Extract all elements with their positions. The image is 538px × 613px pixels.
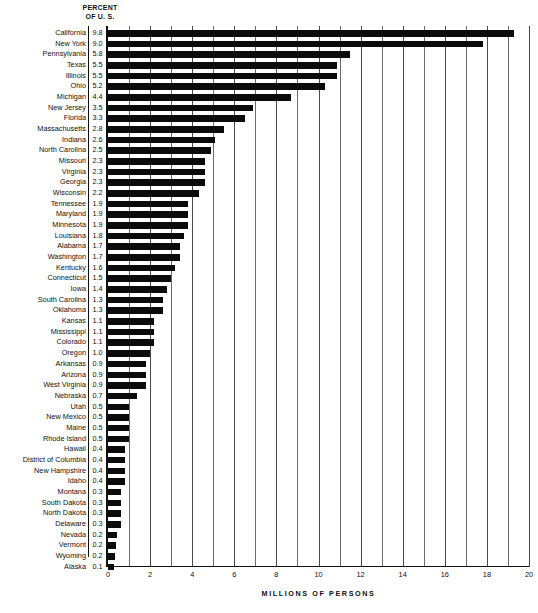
bar-cell [108,412,529,423]
percent-value: 2.6 [90,135,105,146]
table-row: Delaware0.3 [0,519,529,530]
bar [108,478,125,485]
x-axis-title: MILLIONS OF PERSONS [108,589,529,598]
table-row: Wisconsin2.2 [0,188,529,199]
state-label: Louisiana [0,231,86,242]
percent-value: 0.5 [90,402,105,413]
bar [108,30,514,37]
tick-label-2: 2 [138,570,162,579]
percent-value: 2.3 [90,167,105,178]
bar [108,542,116,549]
bar [108,329,154,336]
bar-cell [108,455,529,466]
state-label: Wisconsin [0,188,86,199]
percent-value: 1.9 [90,209,105,220]
percent-value: 2.2 [90,188,105,199]
bar [108,190,199,197]
table-row: Oklahoma1.3 [0,305,529,316]
table-row: Illinois5.5 [0,71,529,82]
percent-value: 1.1 [90,327,105,338]
state-label: Vermont [0,540,86,551]
bar [108,83,325,90]
percent-value: 1.1 [90,316,105,327]
percent-value: 9.0 [90,39,105,50]
bar [108,51,350,58]
bar [108,179,205,186]
percent-value: 0.9 [90,370,105,381]
percent-value: 9.8 [90,28,105,39]
state-label: Arizona [0,370,86,381]
bar [108,414,129,421]
percent-value: 0.5 [90,434,105,445]
percent-value: 0.9 [90,359,105,370]
bar-cell [108,241,529,252]
bar [108,158,205,165]
percent-value: 1.1 [90,337,105,348]
bar [108,211,188,218]
percent-value: 1.0 [90,348,105,359]
bar-cell [108,337,529,348]
table-row: Washington1.7 [0,252,529,263]
bar [108,521,121,528]
bar [108,265,175,272]
bar-cell [108,167,529,178]
state-label: Washington [0,252,86,263]
state-label: Iowa [0,284,86,295]
percent-value: 0.7 [90,391,105,402]
table-row: Massachusetts2.8 [0,124,529,135]
bar-cell [108,487,529,498]
table-row: North Dakota0.3 [0,508,529,519]
percent-value: 5.5 [90,60,105,71]
percent-value: 0.3 [90,508,105,519]
bar-cell [108,316,529,327]
state-label: West Virginia [0,380,86,391]
table-row: Maryland1.9 [0,209,529,220]
bar [108,126,224,133]
bar-cell [108,498,529,509]
tick-label-8: 8 [264,570,288,579]
state-label: Alabama [0,241,86,252]
state-label: Mississippi [0,327,86,338]
table-row: Colorado1.1 [0,337,529,348]
table-row: Nevada0.2 [0,530,529,541]
table-row: Georgia2.3 [0,177,529,188]
bar-cell [108,530,529,541]
percent-value: 0.3 [90,519,105,530]
state-label: North Dakota [0,508,86,519]
table-row: Maine0.5 [0,423,529,434]
bar [108,297,163,304]
table-row: Mississippi1.1 [0,327,529,338]
bar-cell [108,113,529,124]
state-label: Rhode Island [0,434,86,445]
bar [108,254,180,261]
x-axis-tick-labels: 02468101214161820 [0,570,529,584]
table-row: Florida3.3 [0,113,529,124]
percent-value: 0.5 [90,412,105,423]
tick-label-10: 10 [307,570,331,579]
chart-rows: California9.8New York9.0Pennsylvania5.8T… [0,28,529,557]
table-row: New Hampshire0.4 [0,466,529,477]
bar-cell [108,423,529,434]
bar [108,41,483,48]
state-label: New Jersey [0,103,86,114]
bar-cell [108,273,529,284]
bar-cell [108,156,529,167]
table-row: South Dakota0.3 [0,498,529,509]
bar-cell [108,92,529,103]
tick-label-6: 6 [222,570,246,579]
state-label: Tennessee [0,199,86,210]
bar [108,372,146,379]
state-label: Hawaii [0,444,86,455]
state-label: Massachusetts [0,124,86,135]
bar-cell [108,252,529,263]
state-label: Delaware [0,519,86,530]
table-row: Arizona0.9 [0,370,529,381]
bar-cell [108,508,529,519]
state-label: California [0,28,86,39]
bar [108,105,253,112]
table-row: Louisiana1.8 [0,231,529,242]
bar-cell [108,370,529,381]
bar [108,243,180,250]
bar-cell [108,124,529,135]
